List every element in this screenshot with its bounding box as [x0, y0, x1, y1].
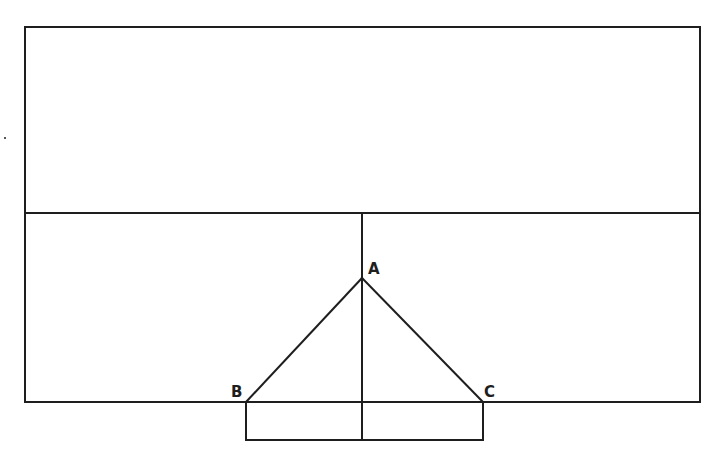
- label-b: B: [231, 383, 242, 401]
- geometry-diagram: A B C: [0, 0, 704, 463]
- label-a: A: [368, 260, 380, 278]
- lower-box: [246, 402, 483, 440]
- label-c: C: [484, 383, 495, 401]
- stray-mark: [4, 137, 6, 139]
- segment-ac: [362, 278, 483, 402]
- segment-ab: [246, 278, 362, 402]
